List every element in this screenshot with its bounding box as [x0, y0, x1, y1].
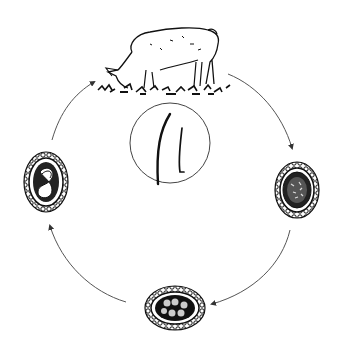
egg-unembryonated	[275, 162, 319, 218]
cycle-arrows	[50, 74, 292, 304]
arrow-right-to-bottom-egg	[212, 230, 290, 304]
pig-illustration	[98, 28, 230, 94]
egg-cleaving	[145, 286, 205, 330]
arrow-left-egg-to-pig	[52, 82, 94, 140]
egg-larvated	[24, 152, 68, 212]
arrow-pig-to-right-egg	[228, 74, 292, 148]
life-cycle-diagram: Pig roundworm life cycle	[0, 0, 340, 351]
arrow-bottom-to-left-egg	[50, 226, 126, 302]
adult-worms-circle	[130, 103, 210, 184]
